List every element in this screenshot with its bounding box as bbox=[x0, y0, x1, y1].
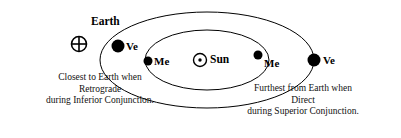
venus-left-marker bbox=[112, 40, 125, 53]
earth-symbol-icon bbox=[72, 37, 87, 52]
earth-label: Earth bbox=[91, 16, 120, 28]
caption-line: during Inferior Conjunction. bbox=[14, 95, 186, 107]
venus-mercury-orbit-diagram: Earth Sun Ve Me Me Ve Closest to Earth w… bbox=[0, 0, 401, 138]
caption-line: Closest to Earth when bbox=[14, 72, 186, 84]
sun-symbol-icon bbox=[194, 54, 207, 67]
mercury-left-marker bbox=[144, 57, 153, 66]
caption-line: Retrograde bbox=[14, 84, 186, 96]
caption-line: Furthest from Earth when bbox=[212, 83, 394, 95]
inferior-conjunction-caption: Closest to Earth when Retrograde during … bbox=[14, 72, 186, 107]
caption-line: Direct bbox=[212, 95, 394, 107]
venus-left-label: Ve bbox=[126, 41, 138, 52]
sun-label: Sun bbox=[210, 54, 229, 66]
mercury-left-label: Me bbox=[154, 56, 169, 67]
mercury-right-label: Me bbox=[264, 58, 279, 69]
superior-conjunction-caption: Furthest from Earth when Direct during S… bbox=[212, 83, 394, 118]
caption-line: during Superior Conjunction. bbox=[212, 106, 394, 118]
mercury-right-marker bbox=[254, 51, 263, 60]
venus-right-label: Ve bbox=[323, 55, 335, 66]
venus-right-marker bbox=[308, 54, 321, 67]
